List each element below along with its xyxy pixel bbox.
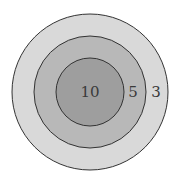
target-diagram: 10 5 3 — [0, 0, 178, 183]
outer-ring-score: 3 — [151, 83, 161, 101]
inner-ring-score: 10 — [80, 83, 99, 101]
middle-ring-score: 5 — [128, 83, 138, 101]
